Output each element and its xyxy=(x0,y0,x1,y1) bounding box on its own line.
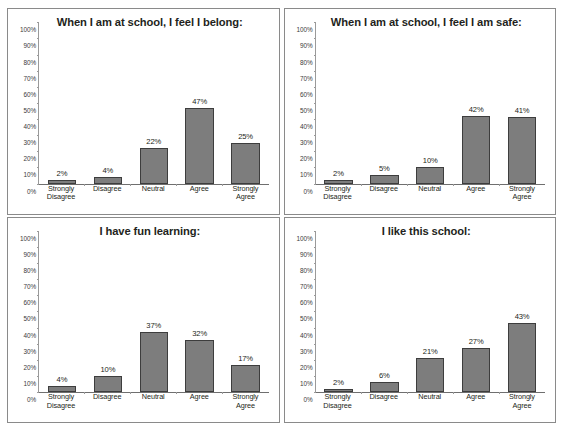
y-axis-tick-label: 30% xyxy=(24,347,37,354)
y-axis-tick-label: 20% xyxy=(300,155,313,162)
bar-series: 4%10%37%32%17% xyxy=(39,231,269,392)
y-axis-tick-label: 50% xyxy=(300,106,313,113)
y-axis-tick-label: 100% xyxy=(20,234,36,241)
x-axis-tick-label-line: Agree xyxy=(499,193,545,202)
chart-panel-2: When I am at school, I feel I am safe:10… xyxy=(284,8,557,215)
bar-value-label: 4% xyxy=(57,375,68,384)
y-axis-tick-label: 40% xyxy=(24,331,37,338)
x-axis-tick-label-line: Disagree xyxy=(38,193,84,202)
x-axis-tick-label-line: Neutral xyxy=(130,185,176,194)
y-axis-tick-label: 30% xyxy=(300,139,313,146)
bar-value-label: 42% xyxy=(469,105,484,114)
bar xyxy=(508,117,536,183)
y-axis-tick-label: 50% xyxy=(300,315,313,322)
x-axis-tick-label: Neutral xyxy=(130,392,176,416)
bar-value-label: 5% xyxy=(379,164,390,173)
y-axis-tick-label: 20% xyxy=(300,363,313,370)
y-axis-tick-label: 70% xyxy=(24,283,37,290)
x-axis-tick-label: StronglyAgree xyxy=(499,184,545,208)
bar-value-label: 2% xyxy=(333,169,344,178)
y-axis-tick-label: 90% xyxy=(24,42,37,49)
bar xyxy=(231,365,259,392)
x-axis-tick-label: Disagree xyxy=(84,392,130,416)
x-axis-tick-label-line: Neutral xyxy=(407,185,453,194)
bar-value-label: 41% xyxy=(515,106,530,115)
plot-area: 100%90%80%70%60%50%40%30%20%10%0%2%4%22%… xyxy=(11,16,273,210)
x-axis-tick-label: StronglyAgree xyxy=(222,392,268,416)
y-axis-tick-label: 90% xyxy=(24,250,37,257)
x-axis-tick-label: Neutral xyxy=(407,184,453,208)
y-axis-tick-label: 30% xyxy=(300,347,313,354)
bar xyxy=(462,116,490,184)
x-axis-tick-label-line: Agree xyxy=(222,193,268,202)
bar-slot: 41% xyxy=(499,22,545,183)
chart-panel-3: I have fun learning:100%90%80%70%60%50%4… xyxy=(7,217,280,424)
bar-value-label: 37% xyxy=(146,321,161,330)
bar-value-label: 10% xyxy=(100,365,115,374)
bar-value-label: 25% xyxy=(238,132,253,141)
bar xyxy=(416,167,444,183)
x-axis-tick-label-line: Agree xyxy=(453,393,499,402)
x-axis-tick-label: StronglyAgree xyxy=(222,184,268,208)
y-axis-tick-label: 0% xyxy=(303,396,312,403)
x-axis-tick-label-line: Disagree xyxy=(84,185,130,194)
bar xyxy=(508,323,536,392)
bar-slot: 2% xyxy=(39,22,85,183)
axes: 100%90%80%70%60%50%40%30%20%10%0%2%6%21%… xyxy=(315,231,546,393)
bar-value-label: 6% xyxy=(379,371,390,380)
x-axis-tick-label-line: Agree xyxy=(222,402,268,411)
x-axis-tick-label: Agree xyxy=(176,392,222,416)
bar-slot: 27% xyxy=(453,231,499,392)
y-axis-tick-label: 60% xyxy=(300,90,313,97)
bar xyxy=(462,348,490,392)
bar-value-label: 21% xyxy=(423,347,438,356)
bar-series: 2%6%21%27%43% xyxy=(316,231,546,392)
bar-slot: 10% xyxy=(85,231,131,392)
bar-slot: 6% xyxy=(361,231,407,392)
bar xyxy=(140,332,168,392)
bar-series: 2%4%22%47%25% xyxy=(39,22,269,183)
y-axis-tick-label: 0% xyxy=(303,187,312,194)
bar-value-label: 43% xyxy=(515,312,530,321)
bar-slot: 37% xyxy=(131,231,177,392)
x-axis-tick-label: Disagree xyxy=(361,184,407,208)
bar-slot: 5% xyxy=(361,22,407,183)
y-axis-tick-label: 60% xyxy=(300,299,313,306)
y-axis-tick-label: 0% xyxy=(27,396,36,403)
y-axis-tick-label: 0% xyxy=(27,187,36,194)
bar-value-label: 22% xyxy=(146,137,161,146)
bar-slot: 43% xyxy=(499,231,545,392)
y-axis-tick-label: 40% xyxy=(300,123,313,130)
bar-value-label: 27% xyxy=(469,337,484,346)
bar xyxy=(94,376,122,392)
axes: 100%90%80%70%60%50%40%30%20%10%0%2%4%22%… xyxy=(38,22,269,184)
bar-series: 2%5%10%42%41% xyxy=(316,22,546,183)
y-axis-tick-label: 80% xyxy=(300,58,313,65)
x-axis-labels: StronglyDisagreeDisagreeNeutralAgreeStro… xyxy=(315,392,546,416)
bar-value-label: 2% xyxy=(333,378,344,387)
x-axis-labels: StronglyDisagreeDisagreeNeutralAgreeStro… xyxy=(38,184,269,208)
bar-slot: 22% xyxy=(131,22,177,183)
y-axis-tick-label: 80% xyxy=(24,267,37,274)
y-axis-tick-label: 20% xyxy=(24,363,37,370)
y-axis-tick-label: 100% xyxy=(297,26,313,33)
bar-value-label: 2% xyxy=(57,169,68,178)
y-axis-tick-label: 70% xyxy=(24,74,37,81)
y-axis-tick-label: 40% xyxy=(300,331,313,338)
x-axis-tick-label: Neutral xyxy=(130,184,176,208)
y-axis-tick-label: 30% xyxy=(24,139,37,146)
y-axis-tick-label: 10% xyxy=(24,171,37,178)
y-axis-tick-label: 60% xyxy=(24,299,37,306)
bar-slot: 42% xyxy=(453,22,499,183)
x-axis-tick-label-line: Agree xyxy=(176,393,222,402)
bar-slot: 32% xyxy=(177,231,223,392)
bar-slot: 2% xyxy=(316,231,362,392)
x-axis-tick-label-line: Disagree xyxy=(315,402,361,411)
x-axis-tick-label: StronglyAgree xyxy=(499,392,545,416)
bar-value-label: 32% xyxy=(192,329,207,338)
y-axis-tick-label: 90% xyxy=(300,250,313,257)
x-axis-tick-label: StronglyDisagree xyxy=(38,184,84,208)
x-axis-tick-label: Agree xyxy=(453,184,499,208)
x-axis-tick-label-line: Neutral xyxy=(407,393,453,402)
bar xyxy=(185,108,213,184)
